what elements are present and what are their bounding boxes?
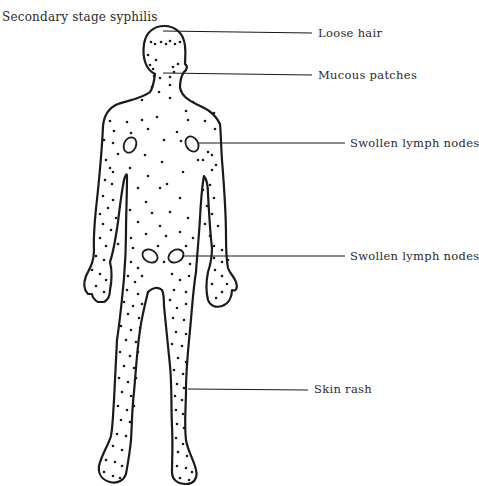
- lymph-node-left-groin: [140, 247, 160, 265]
- label-mucous-patches: Mucous patches: [318, 68, 417, 82]
- label-skin-rash: Skin rash: [314, 382, 372, 396]
- lymph-node-left-axilla: [121, 135, 139, 155]
- body-outline: [84, 26, 237, 484]
- lymph-node-right-axilla: [183, 134, 201, 154]
- label-swollen-lymph-nodes-inguinal: Swollen lymph nodes: [350, 249, 479, 263]
- lymph-node-ovals: [121, 134, 201, 265]
- label-loose-hair: Loose hair: [318, 26, 382, 40]
- label-swollen-lymph-nodes-axillary: Swollen lymph nodes: [350, 136, 479, 150]
